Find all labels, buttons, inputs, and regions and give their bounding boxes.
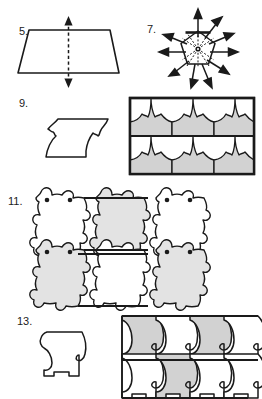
- creature-eye-dot: [165, 198, 170, 203]
- symmetry-axis-arrow-down-icon: [64, 79, 72, 89]
- worksheet-page: 5. 7.: [0, 0, 262, 399]
- exercise-7: 7.: [135, 0, 262, 92]
- exercise-5: 5.: [0, 0, 135, 92]
- exercise-13: 13.: [0, 308, 262, 399]
- puzzle-tile-single: [22, 326, 112, 392]
- exercise-11: 11.: [0, 180, 262, 308]
- creature-tile-shaded: [30, 240, 91, 311]
- exercise-9-number: 9.: [19, 98, 28, 109]
- pentagon-rotational-symmetry-figure: [135, 0, 262, 92]
- pentagon-center-ring: [197, 48, 199, 50]
- trapezoid-symmetry-figure: [0, 0, 135, 92]
- creature-eye-dot: [45, 198, 50, 203]
- creature-tile-shaded: [150, 240, 211, 311]
- creature-eye-dot: [68, 250, 73, 255]
- leaf-tile-single: [30, 106, 120, 172]
- creature-eye-dot: [188, 198, 193, 203]
- creature-eye-dot: [165, 250, 170, 255]
- creature-eye-dot: [188, 250, 193, 255]
- puzzle-tile-outline: [40, 332, 86, 376]
- creature-tessellation-panel: [28, 184, 248, 308]
- leaf-tile-outline: [46, 119, 108, 157]
- creature-eye-dot: [68, 198, 73, 203]
- puzzle-tessellation-panel: [120, 314, 262, 399]
- exercise-9: 9.: [0, 92, 262, 180]
- creature-eye-dot: [45, 250, 50, 255]
- leaf-tessellation-panel: [128, 96, 256, 176]
- exercise-11-number: 11.: [8, 196, 22, 207]
- symmetry-axis-arrow-up-icon: [64, 16, 72, 26]
